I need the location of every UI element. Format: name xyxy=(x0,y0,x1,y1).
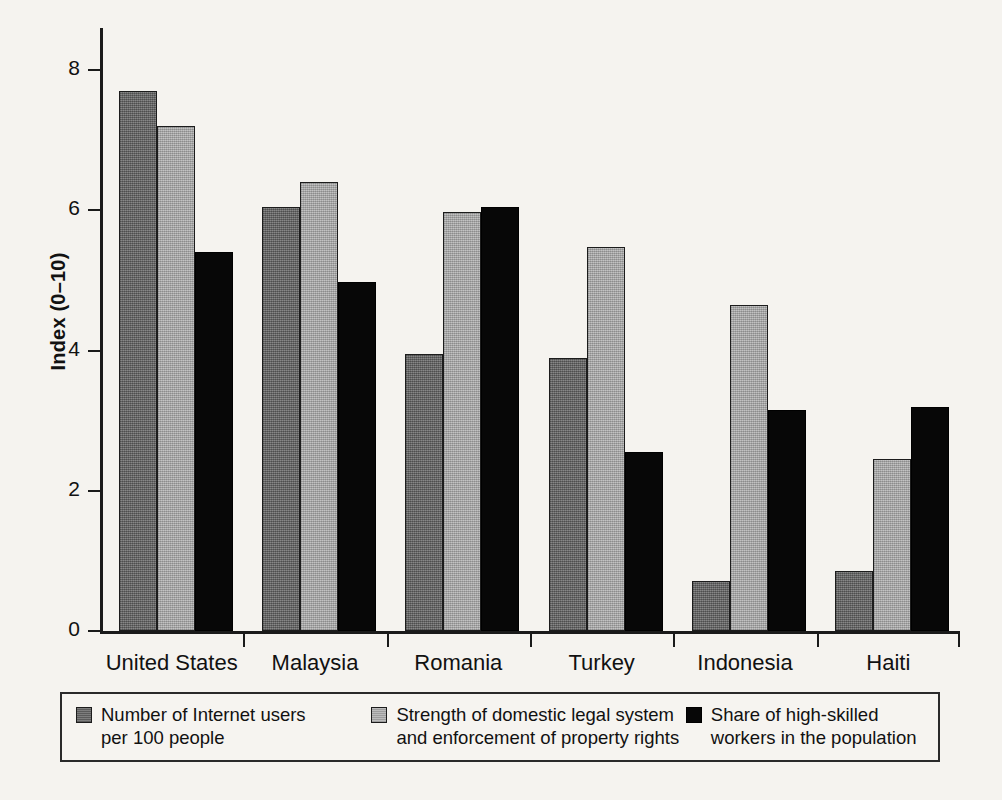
x-axis-label-united-states: United States xyxy=(100,650,243,676)
bar xyxy=(625,452,663,631)
y-axis-tick: 8 xyxy=(88,69,100,71)
plot-area: 02468 xyxy=(100,28,960,634)
bar-group xyxy=(262,28,376,631)
x-axis-label-turkey: Turkey xyxy=(530,650,673,676)
bar xyxy=(300,182,338,631)
y-axis-tick: 6 xyxy=(88,209,100,211)
legend-entry[interactable]: Share of high-skilled workers in the pop… xyxy=(686,704,924,749)
bar xyxy=(549,358,587,631)
bar xyxy=(481,207,519,631)
legend-swatch-icon xyxy=(686,707,702,723)
bar-group xyxy=(549,28,663,631)
bar-chart-figure: Index (0–10) 02468 United StatesMalaysia… xyxy=(0,0,1002,800)
y-axis-tick-label: 2 xyxy=(68,477,80,501)
bar xyxy=(262,207,300,631)
bar xyxy=(157,126,195,631)
legend-entry[interactable]: Strength of domestic legal system and en… xyxy=(371,704,685,749)
bar xyxy=(911,407,949,631)
bar-group xyxy=(692,28,806,631)
bar xyxy=(587,247,625,631)
y-axis-title: Index (0–10) xyxy=(47,192,70,432)
x-axis-tick xyxy=(387,634,389,647)
bar-group xyxy=(835,28,949,631)
legend-label: Share of high-skilled workers in the pop… xyxy=(711,704,917,749)
y-axis-tick-label: 8 xyxy=(68,56,80,80)
x-axis-tick xyxy=(958,634,960,647)
bar xyxy=(119,91,157,631)
x-axis-tick xyxy=(673,634,675,647)
bar xyxy=(405,354,443,631)
x-axis-tick xyxy=(243,634,245,647)
x-axis-label-romania: Romania xyxy=(387,650,530,676)
bar xyxy=(730,305,768,631)
legend-swatch-icon xyxy=(371,707,387,723)
x-axis-label-haiti: Haiti xyxy=(817,650,960,676)
bar xyxy=(443,212,481,631)
legend-entry[interactable]: Number of Internet users per 100 people xyxy=(76,704,371,749)
bar xyxy=(768,410,806,631)
y-axis-tick: 2 xyxy=(88,490,100,492)
x-axis-label-malaysia: Malaysia xyxy=(243,650,386,676)
bar xyxy=(835,571,873,631)
bar xyxy=(338,282,376,631)
y-axis-tick: 0 xyxy=(88,630,100,632)
legend-swatch-icon xyxy=(76,707,92,723)
y-axis-tick-label: 4 xyxy=(68,337,80,361)
bar-group xyxy=(119,28,233,631)
x-axis-tick xyxy=(530,634,532,647)
legend-label: Number of Internet users per 100 people xyxy=(101,704,306,749)
y-axis-tick: 4 xyxy=(88,350,100,352)
x-axis-tick xyxy=(817,634,819,647)
x-axis-label-indonesia: Indonesia xyxy=(673,650,816,676)
y-axis-tick-label: 6 xyxy=(68,196,80,220)
y-axis-line xyxy=(100,28,103,634)
chart-legend: Number of Internet users per 100 peopleS… xyxy=(60,692,940,762)
y-axis-tick-label: 0 xyxy=(68,617,80,641)
bar xyxy=(873,459,911,631)
bar xyxy=(195,252,233,631)
bar xyxy=(692,581,730,631)
legend-label: Strength of domestic legal system and en… xyxy=(396,704,679,749)
bar-group xyxy=(405,28,519,631)
